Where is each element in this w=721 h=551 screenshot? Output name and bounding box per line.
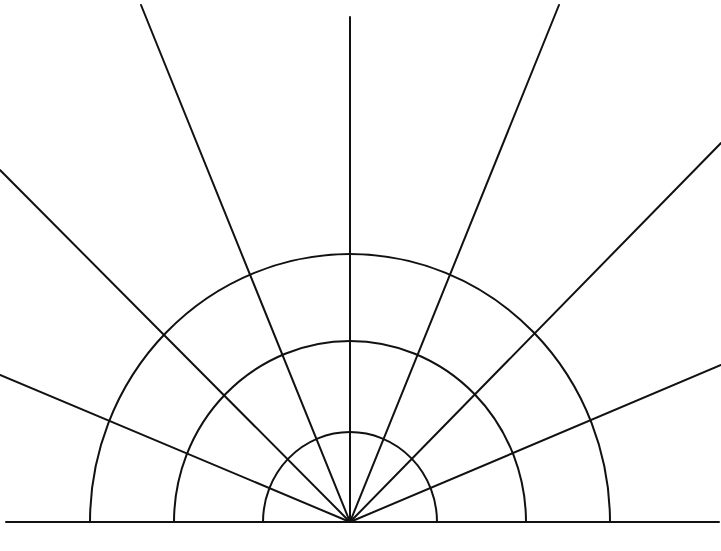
radial-lines: [0, 5, 721, 522]
radial-diagram: [0, 0, 721, 551]
radial-line-7: [350, 365, 721, 522]
radial-line-3: [141, 5, 350, 522]
radial-line-6: [350, 143, 721, 522]
radial-line-1: [0, 170, 350, 522]
radial-line-5: [350, 5, 559, 522]
